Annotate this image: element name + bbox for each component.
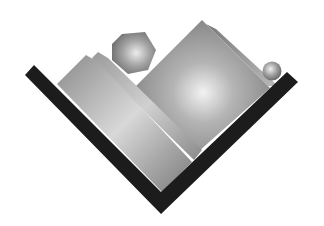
sphere-shape <box>263 62 282 81</box>
geometric-scene <box>0 0 324 226</box>
hexagon-shape <box>112 32 156 74</box>
